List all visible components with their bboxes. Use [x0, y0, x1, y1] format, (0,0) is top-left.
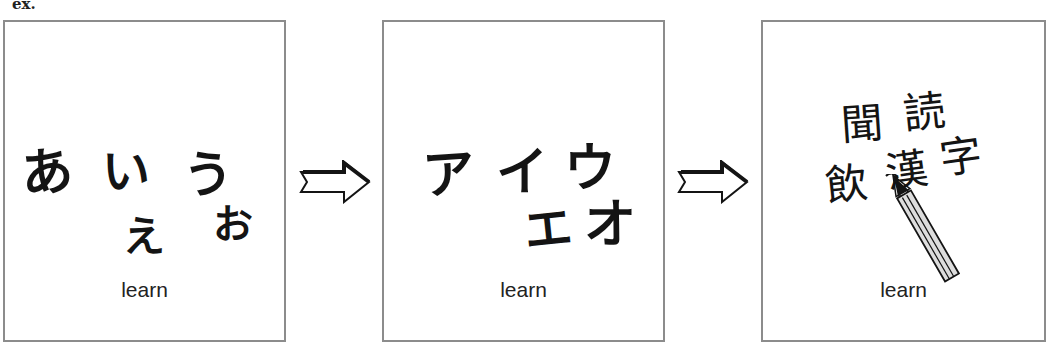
char-o-katakana: オ	[584, 182, 636, 257]
example-label: ex.	[12, 0, 36, 13]
char-e-katakana: エ	[520, 188, 575, 263]
panel-katakana: ア イ ウ エ オ learn	[382, 20, 665, 342]
panel-caption: learn	[384, 278, 663, 302]
char-e: え	[123, 202, 165, 263]
panel-kanji: 聞 読 飲 漢 字 learn	[761, 20, 1046, 342]
right-arrow-icon	[299, 160, 371, 204]
char-o: お	[213, 192, 253, 250]
char-i: い	[102, 132, 150, 202]
char-nomu: 飲	[822, 148, 870, 213]
panel-hiragana: あ い う え お learn	[3, 20, 286, 342]
char-a-katakana: ア	[419, 130, 476, 208]
char-kiku: 聞	[839, 89, 885, 153]
char-a: あ	[17, 127, 77, 207]
panel-caption: learn	[763, 278, 1044, 302]
panel-caption: learn	[5, 278, 284, 302]
pencil-icon	[878, 174, 978, 284]
right-arrow-icon	[677, 160, 749, 204]
